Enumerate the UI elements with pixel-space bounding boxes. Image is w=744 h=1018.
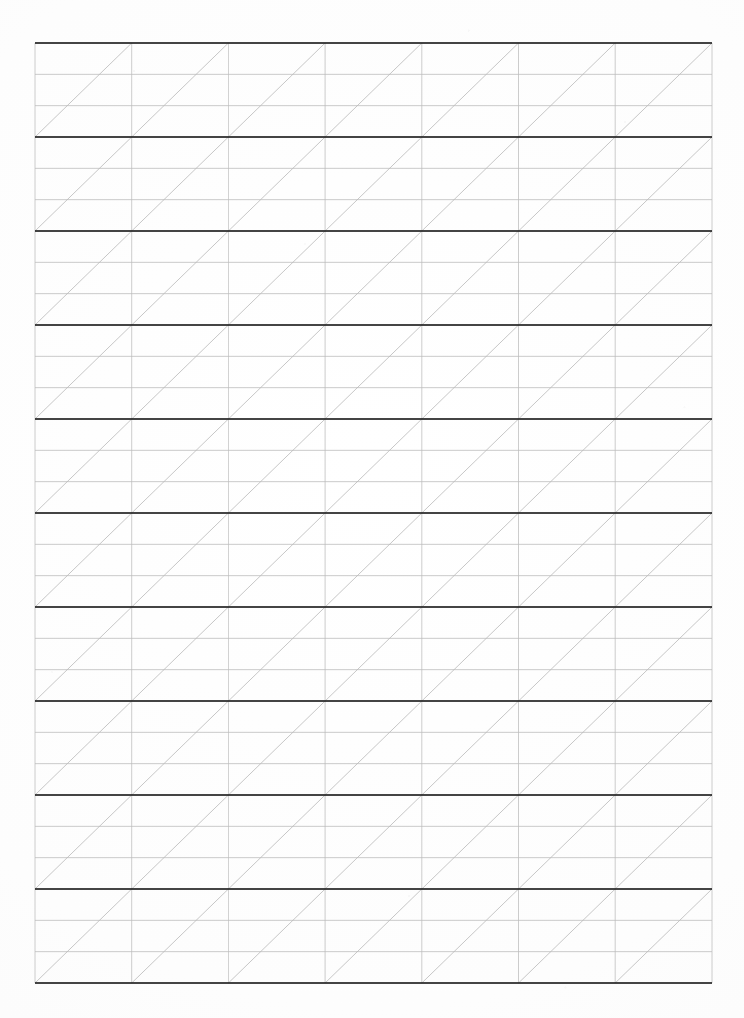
diagonal-guide-9-5 xyxy=(519,889,616,983)
diagonal-guide-5-1 xyxy=(132,513,229,607)
diagonal-guide-4-1 xyxy=(132,419,229,513)
practice-grid xyxy=(0,0,744,1018)
diagonal-guide-5-5 xyxy=(519,513,616,607)
diagonal-guide-0-3 xyxy=(325,43,422,137)
diagonal-guide-7-2 xyxy=(228,701,325,795)
diagonal-guide-7-6 xyxy=(615,701,712,795)
diagonal-guide-7-0 xyxy=(35,701,132,795)
diagonal-guide-9-4 xyxy=(422,889,519,983)
diagonal-guide-8-0 xyxy=(35,795,132,889)
diagonal-guide-1-3 xyxy=(325,137,422,231)
diagonal-guide-5-2 xyxy=(228,513,325,607)
diagonal-guide-3-5 xyxy=(519,325,616,419)
diagonal-guide-4-5 xyxy=(519,419,616,513)
diagonal-guide-0-6 xyxy=(615,43,712,137)
diagonal-guide-3-6 xyxy=(615,325,712,419)
diagonal-guide-0-1 xyxy=(132,43,229,137)
diagonal-guide-2-4 xyxy=(422,231,519,325)
diagonal-guide-9-0 xyxy=(35,889,132,983)
diagonal-guide-0-2 xyxy=(228,43,325,137)
diagonal-guide-2-0 xyxy=(35,231,132,325)
diagonal-guide-4-6 xyxy=(615,419,712,513)
diagonal-guide-5-4 xyxy=(422,513,519,607)
diagonal-guide-1-2 xyxy=(228,137,325,231)
diagonal-guide-0-0 xyxy=(35,43,132,137)
diagonal-guide-8-2 xyxy=(228,795,325,889)
diagonal-guide-8-6 xyxy=(615,795,712,889)
diagonal-guide-6-2 xyxy=(228,607,325,701)
diagonal-guide-6-1 xyxy=(132,607,229,701)
diagonal-guide-8-3 xyxy=(325,795,422,889)
diagonal-guide-1-1 xyxy=(132,137,229,231)
diagonal-guide-6-3 xyxy=(325,607,422,701)
diagonal-guide-4-0 xyxy=(35,419,132,513)
diagonal-guide-7-5 xyxy=(519,701,616,795)
diagonal-guide-7-1 xyxy=(132,701,229,795)
diagonal-guide-2-3 xyxy=(325,231,422,325)
diagonal-guide-8-1 xyxy=(132,795,229,889)
diagonal-guide-7-3 xyxy=(325,701,422,795)
diagonal-guide-9-2 xyxy=(228,889,325,983)
diagonal-guide-2-1 xyxy=(132,231,229,325)
diagonal-guide-5-6 xyxy=(615,513,712,607)
diagonal-guide-3-3 xyxy=(325,325,422,419)
diagonal-guide-1-6 xyxy=(615,137,712,231)
diagonal-guide-2-5 xyxy=(519,231,616,325)
diagonal-guide-8-4 xyxy=(422,795,519,889)
diagonal-guide-7-4 xyxy=(422,701,519,795)
diagonal-guide-9-6 xyxy=(615,889,712,983)
diagonal-guide-8-5 xyxy=(519,795,616,889)
diagonal-guide-3-0 xyxy=(35,325,132,419)
diagonal-guide-2-2 xyxy=(228,231,325,325)
diagonal-guide-1-0 xyxy=(35,137,132,231)
diagonal-guide-3-4 xyxy=(422,325,519,419)
diagonal-guide-6-0 xyxy=(35,607,132,701)
diagonal-guide-2-6 xyxy=(615,231,712,325)
diagonal-guide-4-4 xyxy=(422,419,519,513)
worksheet-page: Calligraphy Slant Practice Grid xyxy=(0,0,744,1018)
diagonal-guide-5-0 xyxy=(35,513,132,607)
diagonal-guide-1-4 xyxy=(422,137,519,231)
diagonal-guide-6-6 xyxy=(615,607,712,701)
diagonal-guide-0-4 xyxy=(422,43,519,137)
diagonal-guide-4-2 xyxy=(228,419,325,513)
diagonal-guide-6-4 xyxy=(422,607,519,701)
diagonal-guide-9-3 xyxy=(325,889,422,983)
diagonal-guide-5-3 xyxy=(325,513,422,607)
diagonal-guide-3-1 xyxy=(132,325,229,419)
diagonal-guide-4-3 xyxy=(325,419,422,513)
diagonal-guide-0-5 xyxy=(519,43,616,137)
diagonal-guide-3-2 xyxy=(228,325,325,419)
diagonal-guide-9-1 xyxy=(132,889,229,983)
diagonal-guide-6-5 xyxy=(519,607,616,701)
diagonal-guide-1-5 xyxy=(519,137,616,231)
